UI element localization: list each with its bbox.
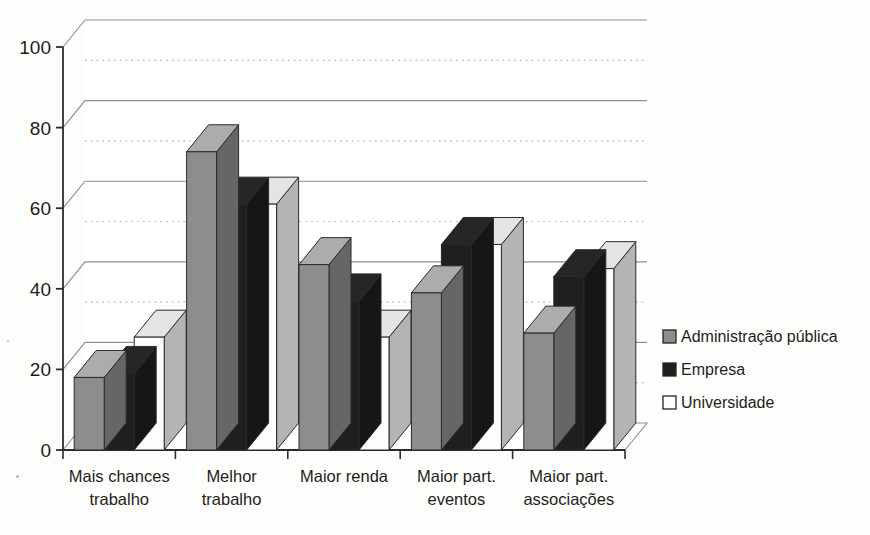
bar [299, 238, 351, 450]
y-tick-label: 20 [30, 359, 51, 380]
y-tick-label: 60 [30, 198, 51, 219]
legend: Administração públicaEmpresaUniversidade [663, 328, 838, 411]
bar [411, 266, 463, 450]
bar [187, 125, 239, 450]
y-tick-label: 0 [40, 440, 51, 461]
bar-side-face [277, 177, 299, 450]
legend-swatch [663, 363, 676, 376]
legend-swatch [663, 396, 676, 409]
bar-front-face [524, 333, 554, 450]
legend-label: Administração pública [681, 328, 838, 345]
bar-front-face [411, 293, 441, 450]
y-tick-label: 80 [30, 118, 51, 139]
y-tick-label: 40 [30, 279, 51, 300]
legend-item[interactable]: Administração pública [663, 328, 838, 345]
category-label: Melhortrabalho [202, 467, 262, 508]
scan-speck [7, 340, 9, 342]
chart-canvas: 020406080100Mais chancestrabalhoMelhortr… [0, 0, 870, 535]
bar-front-face [299, 265, 329, 450]
bar-side-face [501, 217, 523, 450]
legend-label: Empresa [681, 361, 745, 378]
y-tick-label: 100 [19, 37, 51, 58]
bar-side-face [217, 125, 239, 450]
category-label: Maior renda [300, 467, 389, 485]
bar-chart-3d: 020406080100Mais chancestrabalhoMelhortr… [0, 0, 870, 535]
category-axis: Mais chancestrabalhoMelhortrabalhoMaior … [63, 450, 625, 508]
bar-front-face [187, 152, 217, 450]
legend-label: Universidade [681, 394, 774, 411]
bar-side-face [614, 242, 636, 450]
bar-front-face [74, 377, 104, 450]
legend-swatch [663, 330, 676, 343]
bar-side-face [329, 238, 351, 450]
bar-side-face [359, 274, 381, 450]
category-label: Maior part.eventos [417, 467, 496, 508]
legend-item[interactable]: Universidade [663, 394, 774, 411]
bar-side-face [471, 217, 493, 450]
scan-speck [16, 475, 19, 478]
legend-item[interactable]: Empresa [663, 361, 745, 378]
category-label: Maior part.associações [523, 467, 614, 508]
bar-side-face [584, 250, 606, 450]
bar-side-face [247, 177, 269, 450]
bar-side-face [441, 266, 463, 450]
category-label: Mais chancestrabalho [69, 467, 170, 508]
bar [524, 306, 576, 450]
